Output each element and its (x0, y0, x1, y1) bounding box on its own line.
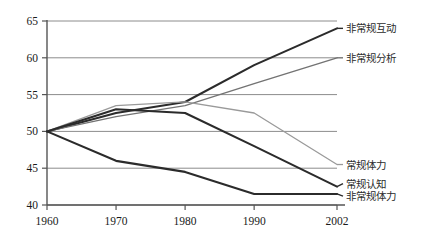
y-tick-label-40: 40 (27, 199, 39, 211)
series-lines-group (47, 28, 337, 194)
series-label-0: 非常规互动 (346, 22, 396, 34)
series-label-2: 常规体力 (346, 159, 386, 171)
y-tick-label-45: 45 (27, 162, 39, 174)
y-tick-label-50: 50 (27, 125, 39, 137)
y-tick-label-55: 55 (27, 89, 39, 101)
series-line-4 (47, 131, 337, 194)
y-tick-label-60: 60 (27, 52, 39, 64)
series-label-1: 非常规分析 (346, 52, 397, 64)
x-tick-label-2002: 2002 (326, 215, 349, 227)
axes-group (47, 20, 345, 205)
x-tick-label-1970: 1970 (105, 215, 128, 227)
x-tick-label-1990: 1990 (243, 215, 266, 227)
x-axis-ticks (47, 205, 337, 210)
x-tick-label-1980: 1980 (174, 215, 197, 227)
y-tick-label-65: 65 (27, 15, 39, 27)
series-leader-3 (337, 184, 343, 187)
y-axis-ticks (42, 21, 47, 205)
series-label-3: 常规认知 (346, 178, 386, 190)
chart-canvas: 404550556065 19601970198019902002 非常规互动非… (0, 0, 438, 244)
series-line-2 (47, 102, 337, 165)
x-axis-tick-labels: 19601970198019902002 (36, 215, 349, 227)
x-tick-label-1960: 1960 (36, 215, 59, 227)
y-axis-tick-labels: 404550556065 (27, 15, 39, 211)
series-label-4: 非常规体力 (346, 190, 396, 202)
line-chart: 404550556065 19601970198019902002 非常规互动非… (0, 0, 438, 244)
series-leader-4 (337, 194, 343, 196)
series-labels-group: 非常规互动非常规分析常规体力常规认知非常规体力 (337, 22, 397, 202)
